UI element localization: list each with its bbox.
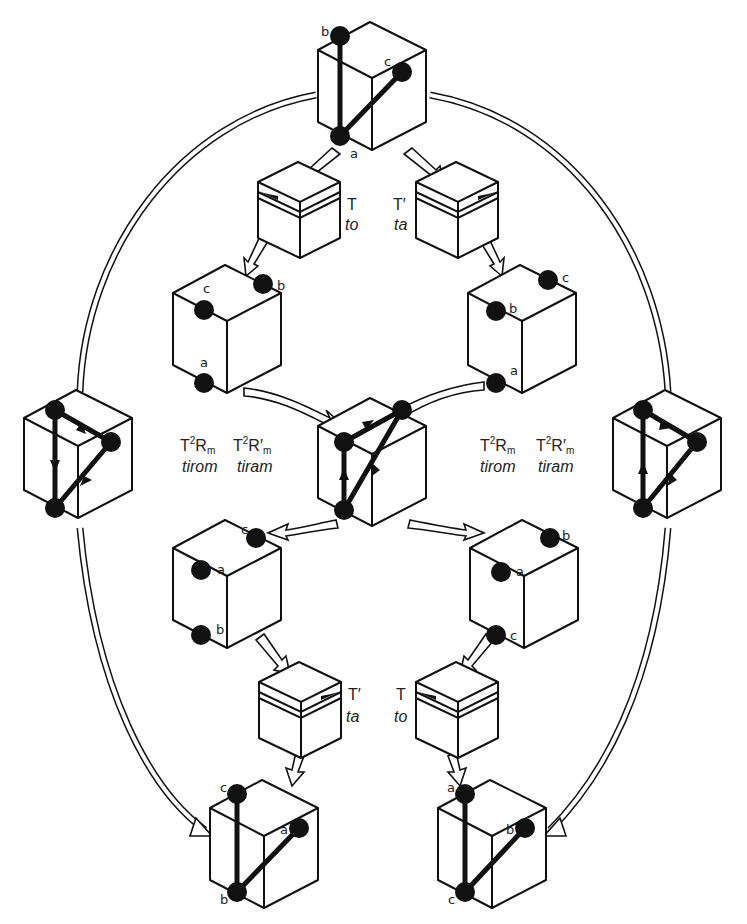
op-name-tirom-right: tirom xyxy=(480,458,516,475)
transform-labels-right: T2Rm tirom T2R′m tiram xyxy=(480,435,574,475)
atom-label-a: a xyxy=(217,562,225,577)
cube-top: b c a xyxy=(318,22,426,161)
cube-bottom-left: c a b xyxy=(210,780,318,908)
op-name-tirom-left: tirom xyxy=(182,458,218,475)
cube-mid-left: b c a xyxy=(173,265,285,393)
cube-center xyxy=(318,398,426,526)
op-name-tiram-left: tiram xyxy=(237,458,273,475)
atom-label-c: c xyxy=(220,780,227,795)
cube-transformation-diagram: b c a T to T′ ta b c a c b a xyxy=(0,0,747,924)
cube-lower-right: b a c xyxy=(470,520,578,648)
cube-bottom-right: a b c xyxy=(438,780,546,908)
atom-label-a: a xyxy=(510,363,518,378)
atom-label-c: c xyxy=(203,281,210,296)
op-name-tiram-right: tiram xyxy=(538,458,574,475)
atom-label-b: b xyxy=(509,301,517,316)
cube-op-lower-right xyxy=(416,662,498,758)
cube-op-upper-left xyxy=(258,162,340,258)
cube-lower-left: c a b xyxy=(173,520,281,648)
atom-label-b: b xyxy=(562,528,570,543)
op-symbol-lower-right: T xyxy=(396,686,406,703)
svg-text:T2R′m: T2R′m xyxy=(233,435,271,456)
op-symbol-lower-left: T′ xyxy=(348,686,361,703)
op-name-lower-left: ta xyxy=(346,708,359,725)
atom-label-b: b xyxy=(220,892,228,907)
atom-label-a: a xyxy=(350,146,358,161)
atom-label-a: a xyxy=(200,355,208,370)
atom-label-b: b xyxy=(506,822,514,837)
cube-op-upper-right xyxy=(416,162,498,258)
atom-label-c: c xyxy=(562,270,569,285)
atom-label-a: a xyxy=(447,780,455,795)
atom-label-b: b xyxy=(277,278,285,293)
op-symbol-upper-right: T′ xyxy=(393,196,406,213)
atom-label-c: c xyxy=(384,54,391,69)
svg-text:T2Rm: T2Rm xyxy=(480,435,515,456)
svg-text:T2R′m: T2R′m xyxy=(536,435,574,456)
op-name-upper-left: to xyxy=(345,216,358,233)
atom-label-c: c xyxy=(510,628,517,643)
atom-label-a: a xyxy=(516,564,524,579)
cube-op-lower-left xyxy=(259,662,341,758)
cube-side-right xyxy=(613,390,721,518)
atom-label-c: c xyxy=(448,892,455,907)
transform-labels-left: T2Rm tirom T2R′m tiram xyxy=(180,435,273,475)
atom-label-a: a xyxy=(280,822,288,837)
atom-label-b: b xyxy=(216,622,224,637)
atom-label-c: c xyxy=(241,522,248,537)
cube-mid-right: c b a xyxy=(468,265,576,393)
atom-label-b: b xyxy=(321,24,329,39)
svg-text:T2Rm: T2Rm xyxy=(180,435,215,456)
cube-side-left xyxy=(24,390,132,518)
op-name-upper-right: ta xyxy=(394,216,407,233)
op-name-lower-right: to xyxy=(394,708,407,725)
op-symbol-upper-left: T xyxy=(347,196,357,213)
